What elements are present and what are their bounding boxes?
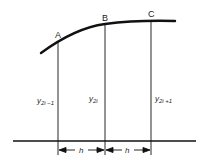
ordinate-label-c: y2i +1 — [154, 94, 172, 104]
ordinate-label-a: y2i −1 — [36, 96, 54, 106]
diagram-canvas: A B C y2i −1 y2i y2i +1 h h — [0, 0, 204, 162]
simpsons-rule-diagram: A B C y2i −1 y2i y2i +1 h h — [0, 0, 204, 162]
spacing-label-h-2: h — [125, 146, 130, 155]
ordinate-label-b: y2i — [88, 94, 98, 104]
point-label-b: B — [102, 13, 108, 23]
point-label-a: A — [55, 30, 61, 40]
spacing-label-h-1: h — [79, 146, 84, 155]
curve — [41, 21, 175, 53]
point-label-c: C — [148, 9, 155, 19]
